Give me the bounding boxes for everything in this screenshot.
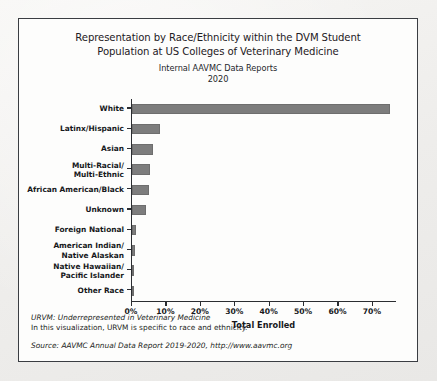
bar xyxy=(132,164,150,174)
x-axis-tick xyxy=(337,301,338,306)
bar-row: Asian xyxy=(131,139,396,159)
x-axis-tick xyxy=(131,301,132,306)
note-source: Source: AAVMC Annual Data Report 2019-20… xyxy=(31,341,401,351)
y-axis-label: Asian xyxy=(101,145,124,154)
note-urvm-definition: URVM: Underrepresented in Veterinary Med… xyxy=(31,313,401,323)
note-urvm-scope: In this visualization, URVM is specific … xyxy=(31,323,401,333)
y-axis-label: Native Hawaiian/Pacific Islander xyxy=(53,262,124,280)
x-axis-line xyxy=(131,301,396,302)
y-axis-tick xyxy=(127,107,132,108)
footnotes: URVM: Underrepresented in Veterinary Med… xyxy=(31,313,401,351)
y-axis-tick xyxy=(127,168,132,169)
bar xyxy=(132,104,390,114)
y-axis-label: American Indian/Native Alaskan xyxy=(53,241,124,259)
bar xyxy=(132,245,135,255)
bar xyxy=(132,225,136,235)
y-axis-tick xyxy=(127,229,132,230)
y-axis-tick xyxy=(127,148,132,149)
bar-row: African American/Black xyxy=(131,180,396,200)
y-axis-label: Foreign National xyxy=(55,226,124,235)
chart-subtitle-line-2: 2020 xyxy=(19,74,417,85)
bar-row: Unknown xyxy=(131,200,396,220)
y-axis-label: Latinx/Hispanic xyxy=(60,125,124,134)
bar xyxy=(132,205,146,215)
chart-card: Representation by Race/Ethnicity within … xyxy=(18,18,418,362)
page-title-line-2: Population at US Colleges of Veterinary … xyxy=(19,45,417,59)
bar-row: Native Hawaiian/Pacific Islander xyxy=(131,261,396,281)
bar-row: Multi-Racial/Multi-Ethnic xyxy=(131,160,396,180)
page-background: Representation by Race/Ethnicity within … xyxy=(0,0,437,381)
page-title-line-1: Representation by Race/Ethnicity within … xyxy=(19,31,417,45)
y-axis-tick xyxy=(127,249,132,250)
x-axis-tick xyxy=(269,301,270,306)
y-axis-label: Other Race xyxy=(78,286,124,295)
y-axis-label: Multi-Racial/Multi-Ethnic xyxy=(72,161,124,179)
bar xyxy=(132,124,160,134)
bar-row: White xyxy=(131,99,396,119)
y-axis-label: White xyxy=(100,105,125,114)
bar xyxy=(132,286,134,296)
bar-row: Latinx/Hispanic xyxy=(131,119,396,139)
y-axis-tick xyxy=(127,208,132,209)
bar xyxy=(132,144,153,154)
y-axis-label: African American/Black xyxy=(27,185,124,194)
x-axis-tick xyxy=(165,301,166,306)
y-axis-tick xyxy=(127,269,132,270)
y-axis-label: Unknown xyxy=(85,206,124,215)
bar xyxy=(132,185,149,195)
bar-row: American Indian/Native Alaskan xyxy=(131,240,396,260)
plot-area: WhiteLatinx/HispanicAsianMulti-Racial/Mu… xyxy=(131,99,396,301)
y-axis-tick xyxy=(127,188,132,189)
x-axis-tick xyxy=(372,301,373,306)
chart-subtitle-line-1: Internal AAVMC Data Reports xyxy=(19,63,417,74)
x-axis-tick xyxy=(200,301,201,306)
chart-title-block: Representation by Race/Ethnicity within … xyxy=(19,31,417,85)
y-axis-tick xyxy=(127,128,132,129)
x-axis-tick xyxy=(234,301,235,306)
bar-row: Other Race xyxy=(131,281,396,301)
bar xyxy=(132,265,134,275)
bar-row: Foreign National xyxy=(131,220,396,240)
x-axis-tick xyxy=(303,301,304,306)
y-axis-tick xyxy=(127,289,132,290)
